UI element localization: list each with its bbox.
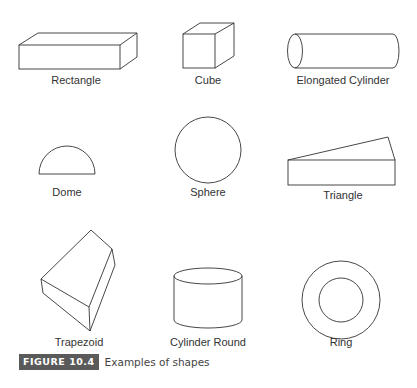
- sphere-shape: [175, 117, 241, 183]
- label-sphere: Sphere: [190, 186, 225, 198]
- trapezoid-shape: [41, 230, 115, 331]
- figure-caption-text: Examples of shapes: [105, 356, 210, 368]
- label-trapezoid: Trapezoid: [55, 336, 104, 348]
- cube-shape: [183, 23, 234, 68]
- label-cube: Cube: [195, 74, 221, 86]
- rectangle-shape: [19, 33, 137, 69]
- figure-number-badge: FIGURE 10.4: [19, 354, 99, 370]
- cylinder-round-shape: [174, 268, 242, 328]
- label-elongated-cylinder: Elongated Cylinder: [297, 74, 390, 86]
- label-dome: Dome: [52, 186, 81, 198]
- ring-shape: [302, 261, 380, 339]
- label-cylinder-round: Cylinder Round: [170, 336, 246, 348]
- label-rectangle: Rectangle: [51, 74, 101, 86]
- label-triangle: Triangle: [323, 189, 362, 201]
- elongated-cylinder-shape: [288, 34, 400, 68]
- triangle-shape: [288, 137, 395, 185]
- figure-caption: FIGURE 10.4 Examples of shapes: [19, 354, 210, 370]
- dome-shape: [39, 146, 95, 174]
- label-ring: Ring: [330, 336, 353, 348]
